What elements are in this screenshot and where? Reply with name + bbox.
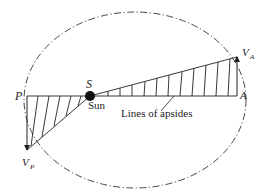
- apsides-label: Lines of apsides: [121, 107, 192, 119]
- aphelion-label: A: [239, 89, 247, 101]
- orbit-ellipse: [24, 12, 246, 188]
- svg-text:P: P: [29, 163, 35, 171]
- perihelion-label: P: [14, 89, 23, 103]
- velocity-aphelion-label: V A: [242, 46, 255, 61]
- velocity-perihelion-label: V P: [22, 156, 35, 171]
- svg-text:V: V: [242, 46, 250, 58]
- swept-area-perihelion: [27, 96, 90, 150]
- svg-text:V: V: [22, 156, 30, 168]
- swept-area-aphelion: [90, 57, 237, 96]
- focus-label: S: [86, 77, 92, 91]
- orbit-diagram: P A S Sun Lines of apsides V A V P: [0, 0, 267, 193]
- svg-text:A: A: [249, 53, 255, 61]
- sun-label: Sun: [88, 99, 106, 111]
